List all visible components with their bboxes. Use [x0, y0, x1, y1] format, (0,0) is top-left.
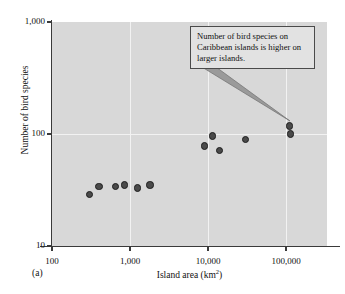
- y-tick-mark: [47, 21, 52, 22]
- y-axis-title: Number of bird species: [20, 35, 30, 185]
- x-tick-label: 10,000: [163, 250, 253, 268]
- data-point: [86, 191, 93, 198]
- x-tick-label-text: 10,000: [196, 256, 221, 266]
- x-axis-title-suffix: ): [219, 270, 222, 280]
- x-tick-label-text: 100,000: [271, 256, 300, 266]
- data-point: [95, 183, 102, 190]
- data-point: [121, 181, 128, 188]
- y-tick-label: 1,000: [0, 17, 45, 27]
- y-tick-label-text: 10: [36, 241, 45, 250]
- panel-label: (a): [32, 268, 43, 278]
- data-point: [201, 142, 208, 149]
- x-tick-label: 1,000: [85, 250, 175, 268]
- annotation-callout: Number of bird species on Caribbean isla…: [190, 26, 315, 69]
- x-tick-label: 100: [7, 250, 97, 268]
- gridline-horizontal: [52, 134, 327, 135]
- figure-scatter-plot: 101001,000 1001,00010,000100,000 Number …: [0, 0, 345, 294]
- x-tick-label-text: 1,000: [120, 256, 140, 266]
- x-axis-line: [40, 246, 340, 247]
- x-tick-label-text: 100: [45, 256, 59, 266]
- data-point: [134, 184, 141, 191]
- x-tick-label: 100,000: [241, 250, 331, 268]
- data-point: [286, 122, 293, 129]
- x-axis-title: Island area (km2): [52, 268, 327, 280]
- x-axis-title-main: Island area (km: [157, 270, 216, 280]
- y-tick-label-text: 100: [32, 129, 46, 138]
- data-point: [146, 181, 153, 188]
- annotation-text: Number of bird species on Caribbean isla…: [197, 31, 301, 63]
- y-tick-label-text: 1,000: [25, 17, 45, 26]
- y-tick-mark: [47, 133, 52, 134]
